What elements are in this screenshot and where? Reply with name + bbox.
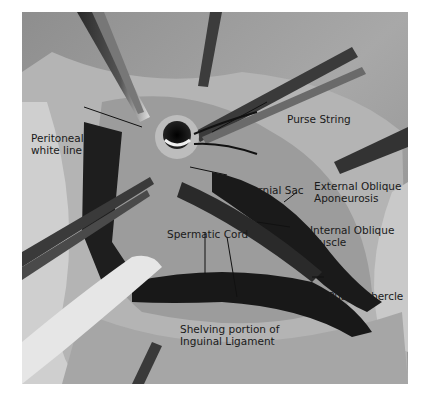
label-spermatic-cord: Spermatic Cord [167,228,248,240]
label-hernial-sac: Hernial Sac [244,184,304,196]
label-shelving-portion-inguinal-ligament: Shelving portion of Inguinal Ligament [180,323,279,347]
label-external-oblique-aponeurosis: External Oblique Aponeurosis [314,180,401,204]
label-pubic-tubercle: Pubic Tubercle [328,290,403,302]
label-peritoneal-white-line: Peritoneal white line [31,132,84,156]
label-purse-string: Purse String [287,113,351,125]
label-internal-oblique-muscle: Internal Oblique Muscle [310,224,394,248]
surgical-illustration: Peritoneal white line Purse String Herni… [22,12,408,384]
